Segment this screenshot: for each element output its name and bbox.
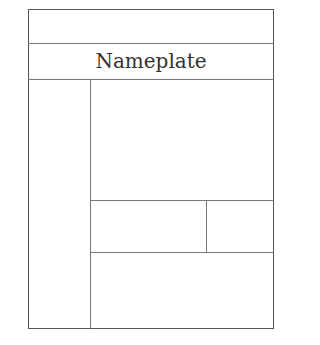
secondary-left-region (90, 200, 206, 252)
secondary-right-region (206, 200, 274, 252)
left-column-region (28, 79, 90, 329)
nameplate-region: Nameplate (28, 43, 274, 79)
masthead-top-region (28, 9, 274, 43)
bottom-story-region (90, 252, 274, 329)
nameplate-label: Nameplate (95, 49, 206, 73)
main-story-region (90, 79, 274, 200)
